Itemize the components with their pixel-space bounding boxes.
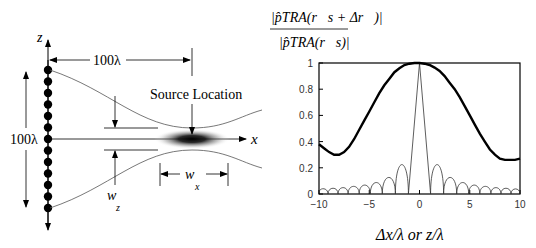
- y-tick-label: 0.6: [299, 110, 313, 121]
- aperture-label: 100λ: [10, 132, 38, 147]
- array-element: [44, 181, 52, 189]
- array-element: [44, 123, 52, 131]
- y-tick-label: 1: [307, 58, 313, 69]
- source-location-label: Source Location: [150, 87, 242, 102]
- array-element: [44, 192, 52, 200]
- range-distance-label: 100λ: [93, 53, 121, 68]
- x-axis-label: x: [250, 131, 258, 147]
- figure: z x 100λ 100λ Source Location w z: [0, 0, 536, 248]
- x-axis-label: Δx/λ or z/λ: [375, 226, 444, 243]
- array-element: [44, 77, 52, 85]
- y-axis-label: |p̂TRA(r⃗s + Δr⃗)| |p̂TRA(r⃗s)|: [270, 10, 383, 51]
- array-element: [44, 89, 52, 97]
- y-tick-label: 0.4: [299, 137, 313, 148]
- z-axis-label: z: [36, 30, 43, 45]
- wz-subscript: z: [115, 202, 120, 213]
- array-diagram: z x 100λ 100λ Source Location w z: [10, 30, 262, 230]
- series-thick-curve: [319, 63, 520, 160]
- chart: |p̂TRA(r⃗s + Δr⃗)| |p̂TRA(r⃗s)| 00.20.40…: [270, 10, 526, 243]
- x-tick-label: −5: [364, 199, 376, 210]
- array-element: [44, 158, 52, 166]
- y-label-numerator: |p̂TRA(r⃗s + Δr⃗)|: [271, 10, 383, 26]
- y-tick-label: 0.2: [299, 163, 313, 174]
- y-label-denominator: |p̂TRA(r⃗s)|: [279, 35, 350, 51]
- array-element: [44, 146, 52, 154]
- x-tick-label: 0: [417, 199, 423, 210]
- x-tick-label: −10: [311, 199, 328, 210]
- series-thin-curve: [319, 63, 520, 194]
- beam-envelope-lower: [50, 150, 262, 208]
- y-tick-label: 0.8: [299, 84, 313, 95]
- wx-label: w: [185, 167, 195, 182]
- wx-subscript: x: [194, 181, 200, 192]
- plot-area: [319, 63, 520, 194]
- x-tick-label: 5: [467, 199, 473, 210]
- x-ticks: −10−50510: [311, 190, 526, 210]
- x-tick-label: 10: [514, 199, 526, 210]
- array-element: [44, 100, 52, 108]
- array-element: [44, 112, 52, 120]
- array-element: [44, 169, 52, 177]
- wz-label: w: [107, 188, 117, 203]
